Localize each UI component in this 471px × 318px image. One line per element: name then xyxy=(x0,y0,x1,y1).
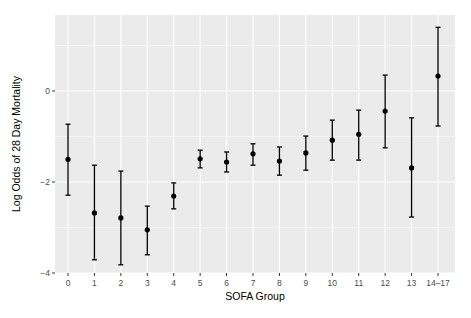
x-tick-label: 9 xyxy=(303,278,308,288)
x-tick-label: 4 xyxy=(171,278,176,288)
x-tick-label: 6 xyxy=(224,278,229,288)
data-point xyxy=(303,150,308,155)
chart: −4−20 01234567891011121314–17 SOFA Group… xyxy=(0,0,471,318)
data-point xyxy=(330,138,335,143)
data-point xyxy=(409,165,414,170)
data-point xyxy=(118,215,123,220)
data-point xyxy=(224,159,229,164)
data-point xyxy=(356,132,361,137)
y-tick-label: −2 xyxy=(40,177,50,187)
x-tick-label: 7 xyxy=(251,278,256,288)
x-tick-label: 5 xyxy=(198,278,203,288)
x-tick-label: 11 xyxy=(354,278,363,288)
y-axis-title: Log Odds of 28 Day Mortality xyxy=(10,75,22,212)
data-point xyxy=(171,194,176,199)
x-tick-label: 3 xyxy=(145,278,150,288)
data-point xyxy=(435,73,440,78)
data-point xyxy=(383,108,388,113)
x-tick-label: 12 xyxy=(380,278,390,288)
y-tick-label: −4 xyxy=(40,268,50,278)
x-axis: 01234567891011121314–17 xyxy=(66,273,450,288)
data-point xyxy=(145,227,150,232)
y-tick-label: 0 xyxy=(45,86,50,96)
data-point xyxy=(92,210,97,215)
x-tick-label: 10 xyxy=(328,278,338,288)
data-point xyxy=(250,151,255,156)
data-point xyxy=(198,156,203,161)
data-point xyxy=(277,158,282,163)
x-tick-label: 0 xyxy=(66,278,71,288)
x-tick-label: 14–17 xyxy=(426,278,450,288)
x-tick-label: 8 xyxy=(277,278,282,288)
y-axis: −4−20 xyxy=(40,86,55,278)
x-tick-label: 13 xyxy=(407,278,417,288)
x-tick-label: 2 xyxy=(118,278,123,288)
x-axis-title: SOFA Group xyxy=(225,290,285,302)
data-point xyxy=(65,157,70,162)
x-tick-label: 1 xyxy=(92,278,97,288)
